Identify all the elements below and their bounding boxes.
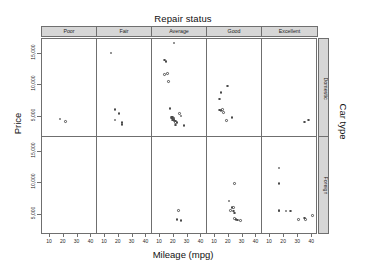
data-point	[110, 52, 113, 55]
data-point	[59, 118, 62, 121]
strip-header-domestic-label: Domestic	[321, 60, 330, 116]
y-ticklabel-foreign-10000: 10,000	[30, 166, 36, 196]
x-tick	[132, 234, 133, 237]
data-point	[233, 182, 236, 185]
data-point	[232, 206, 235, 209]
data-point	[311, 214, 314, 217]
strip-header-excellent: Excellent	[261, 26, 318, 37]
x-tick	[63, 234, 64, 237]
data-point	[169, 107, 172, 110]
chart-title: Repair status	[0, 13, 366, 24]
x-tick	[90, 234, 91, 237]
x-ticklabel: 30	[290, 238, 304, 244]
data-point	[165, 60, 168, 63]
data-point	[222, 111, 225, 114]
data-point	[303, 121, 306, 124]
x-tick	[255, 234, 256, 237]
data-point	[183, 124, 186, 127]
x-ticklabel: 10	[152, 238, 166, 244]
x-tick	[49, 234, 50, 237]
x-tick	[187, 234, 188, 237]
data-point	[289, 210, 292, 213]
x-ticklabel: 20	[276, 238, 290, 244]
x-tick	[200, 234, 201, 237]
y-ticklabel-foreign-5000: 5,000	[30, 198, 36, 228]
panel-domestic-average	[152, 39, 206, 136]
strip-header-foreign-label: Foreign	[321, 158, 330, 214]
panel-domestic-good	[207, 39, 261, 136]
y-ticklabel-domestic-15000: 15,000	[30, 37, 36, 67]
x-tick	[118, 234, 119, 237]
data-point	[114, 108, 117, 111]
x-axis-title: Mileage (mpg)	[0, 249, 366, 260]
data-point	[118, 112, 121, 115]
panel-domestic-poor	[42, 39, 96, 136]
panel-foreign-average	[152, 137, 206, 233]
x-ticklabel: 30	[70, 238, 84, 244]
data-point	[285, 210, 288, 213]
data-point	[278, 209, 281, 212]
data-point	[278, 167, 281, 170]
data-point	[64, 120, 67, 123]
y-tick-domestic-5000	[37, 116, 41, 117]
x-tick	[104, 234, 105, 237]
x-ticklabel: 10	[97, 238, 111, 244]
data-point	[231, 116, 234, 119]
x-ticklabel: 30	[180, 238, 194, 244]
data-point	[233, 212, 236, 215]
y-ticklabel-domestic-10000: 10,000	[30, 68, 36, 98]
panel-domestic-fair	[97, 39, 151, 136]
data-point	[166, 72, 169, 75]
data-point	[218, 98, 221, 101]
x-tick	[311, 234, 312, 237]
x-ticklabel: 20	[111, 238, 125, 244]
data-point	[307, 119, 310, 122]
data-point	[167, 80, 170, 83]
strip-header-poor: Poor	[41, 26, 97, 37]
data-point	[114, 119, 117, 122]
panel-foreign-excellent	[262, 137, 317, 233]
y-tick-foreign-5000	[37, 214, 41, 215]
x-tick	[269, 234, 270, 237]
strip-header-fair: Fair	[96, 26, 152, 37]
x-tick	[145, 234, 146, 237]
x-tick	[214, 234, 215, 237]
strip-header-average: Average	[151, 26, 207, 37]
data-point	[174, 124, 177, 127]
data-point	[173, 42, 176, 45]
x-ticklabel: 20	[221, 238, 235, 244]
chart-root: Repair status Price Mileage (mpg) Car ty…	[0, 0, 366, 270]
data-point	[177, 209, 180, 212]
strip-header-good: Good	[206, 26, 262, 37]
right-axis-title: Car type	[338, 92, 349, 152]
data-point	[176, 218, 179, 221]
panel-foreign-fair	[97, 137, 151, 233]
y-ticklabel-domestic-5000: 5,000	[30, 100, 36, 130]
data-point	[297, 218, 300, 221]
y-tick-domestic-15000	[37, 53, 41, 54]
y-tick-foreign-10000	[37, 182, 41, 183]
data-point	[220, 91, 223, 94]
data-point	[121, 123, 124, 126]
x-ticklabel: 40	[248, 238, 262, 244]
x-ticklabel: 10	[42, 238, 56, 244]
data-point	[225, 119, 228, 122]
x-ticklabel: 20	[166, 238, 180, 244]
data-point	[228, 200, 231, 203]
data-point	[304, 218, 307, 221]
x-tick	[228, 234, 229, 237]
x-ticklabel: 30	[235, 238, 249, 244]
x-tick	[283, 234, 284, 237]
panel-foreign-poor	[42, 137, 96, 233]
x-ticklabel: 40	[83, 238, 97, 244]
x-tick	[297, 234, 298, 237]
y-ticklabel-foreign-15000: 15,000	[30, 135, 36, 165]
x-ticklabel: 30	[125, 238, 139, 244]
x-ticklabel: 10	[262, 238, 276, 244]
x-tick	[242, 234, 243, 237]
x-tick	[77, 234, 78, 237]
x-ticklabel: 10	[207, 238, 221, 244]
data-point	[173, 117, 176, 120]
y-axis-title: Price	[12, 94, 23, 154]
x-ticklabel: 40	[304, 238, 318, 244]
